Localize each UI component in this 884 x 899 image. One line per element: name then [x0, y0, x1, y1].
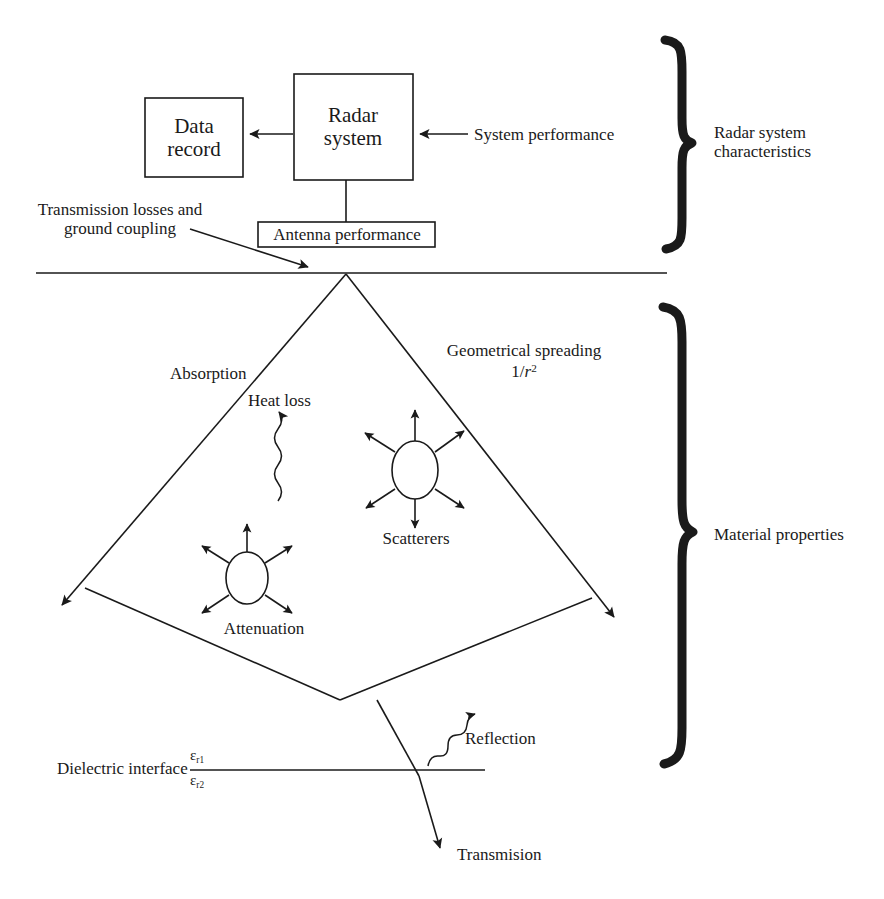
antenna-performance-label: Antenna performance	[273, 226, 421, 245]
incident-ray-to-interface	[377, 700, 419, 776]
epsilon-r2-label: εr2	[190, 772, 204, 790]
ray-lower-right-edge	[340, 598, 592, 700]
scatterer-lower-body	[226, 552, 268, 604]
brace-material-properties	[663, 307, 693, 764]
epsilon-r1-label: εr1	[190, 747, 204, 765]
scatterer-lower-ray-sw	[202, 595, 229, 613]
ray-lower-left-edge	[85, 588, 340, 700]
scatterer-upper-ray-nw	[365, 433, 395, 452]
radar-system-characteristics-label: Radar systemcharacteristics	[714, 123, 811, 161]
brace-radar-system-characteristics	[665, 40, 692, 249]
scatterer-upper-ray-se	[435, 489, 464, 508]
scatterer-lower-ray-se	[265, 595, 292, 613]
system-performance-label: System performance	[474, 125, 614, 144]
attenuation-label: Attenuation	[224, 619, 304, 638]
scatterers-label: Scatterers	[382, 529, 449, 548]
absorption-label: Absorption	[170, 364, 247, 383]
material-properties-label: Material properties	[714, 525, 844, 544]
transmission-losses-label: Transmission losses andground coupling	[38, 200, 203, 238]
data-record-label: Datarecord	[167, 115, 221, 161]
geometrical-spreading-formula: 1/r2	[511, 362, 536, 381]
transmitted-ray	[419, 776, 440, 848]
scatterer-upper-ray-sw	[366, 489, 395, 508]
diagram-canvas: Datarecord Radarsystem Antenna performan…	[0, 0, 884, 899]
scatterer-lower-ray-ne	[265, 546, 292, 563]
heat-loss-wave	[275, 412, 282, 501]
scatterer-upper-ray-ne	[435, 431, 464, 452]
ray-down-left	[62, 274, 346, 605]
transmission-label: Transmision	[457, 845, 541, 864]
heat-loss-label: Heat loss	[248, 391, 311, 410]
geometrical-spreading-label: Geometrical spreading	[447, 341, 601, 360]
reflection-label: Reflection	[465, 729, 536, 748]
radar-system-label: Radarsystem	[324, 104, 382, 150]
scatterer-upper-body	[392, 441, 438, 499]
scatterer-lower-ray-nw	[202, 546, 229, 563]
dielectric-interface-label: Dielectric interface	[57, 759, 188, 778]
